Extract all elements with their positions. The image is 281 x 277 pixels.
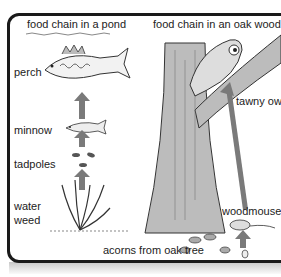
label-tadpoles: tadpoles: [14, 158, 56, 170]
arrow-minnow-to-perch: [74, 92, 90, 119]
label-perch: perch: [14, 66, 42, 78]
water-surface: [26, 33, 110, 35]
arrow-acorns-to-mouse: [235, 230, 251, 248]
label-woodmouse: woodmouse: [222, 205, 281, 217]
pond-title: food chain in a pond: [27, 18, 126, 30]
tadpoles-icon: [72, 152, 95, 167]
label-tawny-owl: tawny owl: [236, 95, 281, 107]
arrow-weed-to-tadpoles: [74, 169, 90, 190]
label-weed: weed: [14, 214, 40, 226]
water-weed-icon: [50, 180, 130, 231]
label-minnow: minnow: [14, 124, 52, 136]
wood-title: food chain in an oak wood: [153, 18, 281, 30]
label-acorns: acorns from oak tree: [103, 244, 204, 256]
illustrations: [0, 0, 281, 277]
pond-arrows: [74, 92, 90, 190]
woodmouse-icon: [230, 220, 275, 230]
perch-icon: [45, 45, 130, 78]
minnow-icon: [66, 120, 106, 134]
label-water: water: [14, 200, 41, 212]
